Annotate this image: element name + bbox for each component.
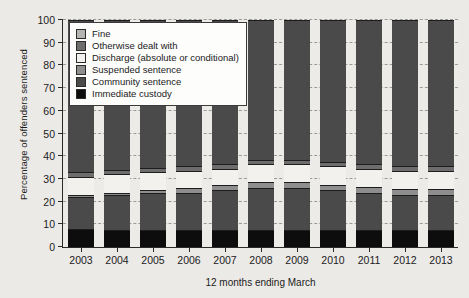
x-axis-label: 2008 <box>249 254 272 266</box>
bar-segment <box>212 164 239 169</box>
bar-segment <box>248 164 275 182</box>
legend-item[interactable]: Immediate custody <box>76 88 239 99</box>
bar-segment <box>176 166 203 171</box>
legend-swatch-icon <box>76 89 86 99</box>
legend: FineOtherwise dealt withDischarge (absol… <box>69 22 247 106</box>
bar-segment <box>356 187 383 193</box>
x-axis-label: 2004 <box>105 254 128 266</box>
y-axis-tick <box>58 223 63 224</box>
bar-segment <box>140 172 167 190</box>
bar-2011[interactable] <box>356 20 383 247</box>
legend-label: Fine <box>92 28 110 39</box>
y-axis-label: 70 <box>43 82 55 94</box>
y-axis-label: 30 <box>43 173 55 185</box>
bar-segment <box>140 190 167 192</box>
bar-2009[interactable] <box>284 20 311 247</box>
bar-segment <box>392 171 419 189</box>
bar-segment <box>320 230 347 247</box>
bar-segment <box>284 230 311 247</box>
bar-2008[interactable] <box>248 20 275 247</box>
y-axis-label: 10 <box>43 218 55 230</box>
legend-item[interactable]: Fine <box>76 28 239 39</box>
y-axis-label: 90 <box>43 37 55 49</box>
x-axis-tick <box>189 247 190 252</box>
bar-2010[interactable] <box>320 20 347 247</box>
y-axis-tick <box>58 87 63 88</box>
bar-segment <box>104 170 131 175</box>
y-axis-label: 0 <box>49 241 55 253</box>
y-axis-label: 20 <box>43 196 55 208</box>
bar-segment <box>320 190 347 230</box>
bar-2013[interactable] <box>428 20 455 247</box>
x-axis-title: 12 months ending March <box>60 277 461 288</box>
y-axis-tick <box>58 64 63 65</box>
chart-figure: Percentage of offenders sentenced 12 mon… <box>0 0 469 298</box>
x-axis-tick <box>117 247 118 252</box>
legend-item[interactable]: Community sentence <box>76 76 239 87</box>
legend-label: Community sentence <box>92 76 181 87</box>
bar-segment <box>356 20 383 164</box>
bar-segment <box>284 20 311 160</box>
x-axis-label: 2011 <box>358 254 381 266</box>
bar-2012[interactable] <box>392 20 419 247</box>
legend-swatch-icon <box>76 77 86 87</box>
bar-segment <box>248 230 275 247</box>
bar-segment <box>140 168 167 173</box>
bar-segment <box>428 230 455 247</box>
bar-segment <box>356 169 383 187</box>
bar-segment <box>104 195 131 230</box>
bar-segment <box>392 20 419 166</box>
bar-segment <box>356 230 383 247</box>
bar-segment <box>428 195 455 230</box>
bar-segment <box>176 171 203 188</box>
bar-segment <box>212 190 239 230</box>
bar-segment <box>176 188 203 193</box>
bar-segment <box>356 164 383 169</box>
x-axis-label: 2007 <box>213 254 236 266</box>
x-axis-tick <box>297 247 298 252</box>
bar-segment <box>428 166 455 171</box>
bar-segment <box>320 162 347 167</box>
y-axis-tick <box>58 246 63 247</box>
bar-segment <box>68 197 95 229</box>
legend-item[interactable]: Otherwise dealt with <box>76 40 239 51</box>
bar-segment <box>320 166 347 184</box>
bar-segment <box>428 189 455 195</box>
bar-segment <box>248 188 275 230</box>
y-axis-tick <box>58 178 63 179</box>
legend-swatch-icon <box>76 65 86 75</box>
bar-segment <box>392 230 419 247</box>
y-axis-tick <box>58 201 63 202</box>
x-axis-label: 2009 <box>285 254 308 266</box>
y-axis-label: 40 <box>43 150 55 162</box>
bar-segment <box>68 229 95 247</box>
bar-segment <box>284 182 311 188</box>
bar-segment <box>176 193 203 230</box>
legend-item[interactable]: Suspended sentence <box>76 64 239 75</box>
y-axis-tick <box>58 19 63 20</box>
legend-label: Suspended sentence <box>92 64 181 75</box>
bar-segment <box>140 193 167 230</box>
x-axis-label: 2005 <box>141 254 164 266</box>
legend-label: Immediate custody <box>92 88 172 99</box>
bar-segment <box>176 230 203 247</box>
bar-segment <box>212 230 239 247</box>
bar-segment <box>284 164 311 182</box>
bar-segment <box>212 169 239 185</box>
x-axis-label: 2003 <box>69 254 92 266</box>
x-axis-label: 2012 <box>393 254 416 266</box>
bar-segment <box>212 185 239 191</box>
y-axis-label: 100 <box>37 14 55 26</box>
bar-segment <box>248 20 275 160</box>
legend-label: Discharge (absolute or conditional) <box>92 52 239 63</box>
legend-item[interactable]: Discharge (absolute or conditional) <box>76 52 239 63</box>
x-axis-tick <box>81 247 82 252</box>
bar-segment <box>428 171 455 189</box>
x-axis-tick <box>225 247 226 252</box>
bar-segment <box>140 230 167 247</box>
x-axis-tick <box>153 247 154 252</box>
bar-segment <box>68 172 95 177</box>
x-axis-label: 2013 <box>429 254 452 266</box>
bar-segment <box>104 230 131 247</box>
x-axis-tick <box>261 247 262 252</box>
